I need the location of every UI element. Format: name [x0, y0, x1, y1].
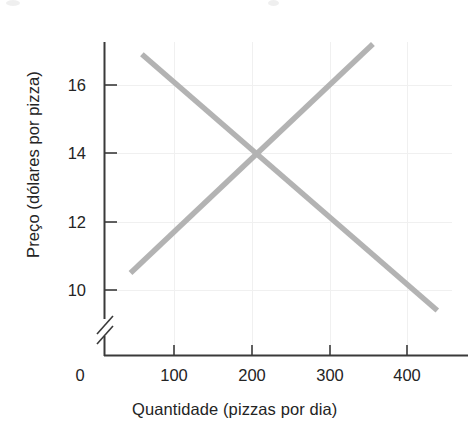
x-tick-marks [174, 345, 407, 355]
demand-curve [142, 54, 437, 310]
y-tick-marks [105, 85, 117, 290]
supply-demand-chart-figure: Preço (dólares por pizza) Quantidade (pi… [0, 0, 475, 433]
grid-lines [104, 42, 452, 352]
plot-area [0, 0, 475, 433]
